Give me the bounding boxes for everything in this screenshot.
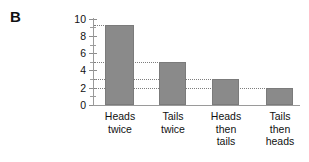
x-category-label-heads-twice: Heads twice bbox=[95, 110, 145, 135]
y-tick-label-8: 8 bbox=[66, 31, 86, 41]
y-tick-label-10: 10 bbox=[66, 14, 86, 24]
y-tick-6: 6 bbox=[64, 48, 86, 58]
x-axis-line bbox=[93, 105, 300, 106]
x-category-label-heads-then-tails: Heads then tails bbox=[202, 110, 250, 148]
bar-heads-then-tails[interactable] bbox=[212, 79, 239, 105]
y-tick-8: 8 bbox=[64, 31, 86, 41]
x-category-line-1: Tails bbox=[150, 110, 196, 123]
x-category-label-tails-twice: Tails twice bbox=[150, 110, 196, 135]
y-tick-0: 0 bbox=[64, 100, 86, 110]
bar-chart-plot: 10 8 6 4 2 0 bbox=[0, 0, 309, 162]
y-tick-2: 2 bbox=[64, 83, 86, 93]
y-tick-label-0: 0 bbox=[66, 100, 86, 110]
figure-panel-b: B 10 8 6 4 2 0 bbox=[0, 0, 309, 162]
y-tick-label-4: 4 bbox=[66, 65, 86, 75]
y-tick-4: 4 bbox=[64, 65, 86, 75]
y-tick-10: 10 bbox=[64, 14, 86, 24]
x-category-line-2: twice bbox=[150, 123, 196, 136]
x-category-line-3: tails bbox=[202, 135, 250, 148]
x-category-line-1: Heads bbox=[202, 110, 250, 123]
y-tick-label-2: 2 bbox=[66, 83, 86, 93]
x-category-line-3: heads bbox=[256, 135, 304, 148]
x-category-line-2: twice bbox=[95, 123, 145, 136]
y-tick-label-6: 6 bbox=[66, 48, 86, 58]
bar-heads-twice[interactable] bbox=[105, 25, 134, 105]
x-category-line-1: Heads bbox=[95, 110, 145, 123]
x-category-label-tails-then-heads: Tails then heads bbox=[256, 110, 304, 148]
bar-tails-twice[interactable] bbox=[159, 62, 186, 105]
x-category-line-2: then bbox=[256, 123, 304, 136]
x-category-line-2: then bbox=[202, 123, 250, 136]
x-category-line-1: Tails bbox=[256, 110, 304, 123]
bar-tails-then-heads[interactable] bbox=[266, 88, 293, 105]
